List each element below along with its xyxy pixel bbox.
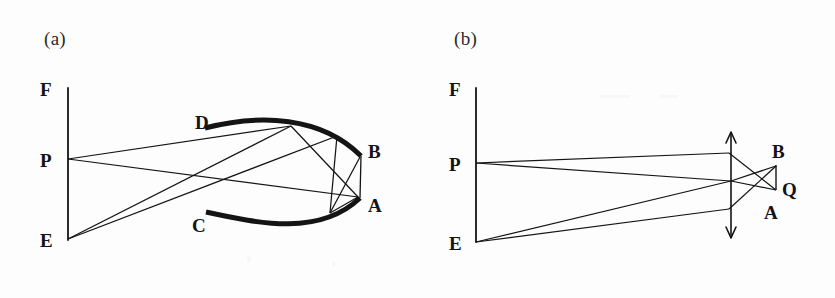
ray-lensmid-to-Q (731, 181, 776, 190)
point-label-P: P (40, 151, 52, 170)
ray-lensmid-to-B (731, 166, 776, 181)
panel-a: (a) F P E D C B A (0, 0, 418, 298)
point-label-E: E (449, 234, 462, 253)
upper-mirror-arc-DB (205, 120, 361, 156)
point-label-Q: Q (782, 180, 797, 199)
panel-b-caption: (b) (454, 28, 477, 50)
point-label-E: E (40, 231, 53, 250)
panel-a-caption: (a) (44, 28, 66, 50)
point-label-A: A (368, 196, 382, 215)
figure-root: (a) F P E D C B A (b) F P E B Q A (0, 0, 835, 298)
ray-lenstop-to-Q (729, 153, 776, 190)
ray-E-to-lens-bottom (476, 209, 729, 242)
ray-upperarc-to-A (291, 126, 358, 197)
point-label-A: A (764, 203, 778, 222)
point-label-D: D (195, 113, 209, 132)
ray-E-to-lens-mid (476, 181, 731, 242)
ray-P-to-lens-mid (476, 163, 731, 181)
point-label-P: P (449, 155, 461, 174)
point-label-F: F (40, 80, 52, 99)
point-label-B: B (368, 142, 381, 161)
lower-mirror-arc-CA (206, 198, 360, 224)
point-label-F: F (449, 80, 461, 99)
ray-P-to-A (68, 159, 358, 197)
panel-b: (b) F P E B Q A (418, 0, 835, 298)
point-label-B: B (772, 142, 785, 161)
point-label-C: C (192, 216, 206, 235)
chord-B-to-A (360, 156, 361, 198)
ray-P-to-lens-top (476, 153, 729, 163)
